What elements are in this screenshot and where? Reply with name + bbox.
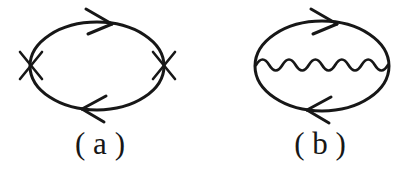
feynman-diagram-figure: ( a ) ( b ) xyxy=(0,0,412,176)
panel-b-group xyxy=(255,9,389,123)
panel-label-a: ( a ) xyxy=(40,128,160,159)
panel-label-b: ( b ) xyxy=(260,128,380,159)
interaction-wavy-line-b xyxy=(256,60,388,71)
fermion-loop-a xyxy=(30,22,164,110)
panel-a-group xyxy=(20,9,175,122)
